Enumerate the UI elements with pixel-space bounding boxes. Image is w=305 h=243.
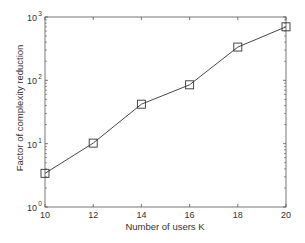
x-tick-label: 18 [233,210,243,220]
major-ticks [45,17,286,207]
y-tick-labels: 100101102103 [27,10,42,213]
axes-box [45,17,286,207]
y-axis-label: Factor of complexity reduction [14,45,25,172]
x-axis-label: Number of users K [125,221,205,232]
chart: 101214161820 100101102103 Number of user… [0,0,305,243]
x-tick-label: 12 [88,210,98,220]
x-tick-label: 20 [281,210,291,220]
series-line [45,27,286,174]
y-tick-exponent: 1 [38,137,42,144]
x-tick-label: 16 [185,210,195,220]
x-tick-label: 10 [40,210,50,220]
y-tick-label: 10 [27,140,37,150]
data-series [41,23,290,178]
minor-ticks [45,20,286,188]
y-tick-exponent: 3 [38,10,42,17]
axes-frame [45,17,286,207]
y-tick-label: 10 [27,13,37,23]
x-tick-labels: 101214161820 [40,210,291,220]
y-tick-exponent: 2 [38,73,42,80]
y-tick-exponent: 0 [38,200,42,207]
x-tick-label: 14 [136,210,146,220]
y-tick-label: 10 [27,76,37,86]
y-tick-label: 10 [27,203,37,213]
